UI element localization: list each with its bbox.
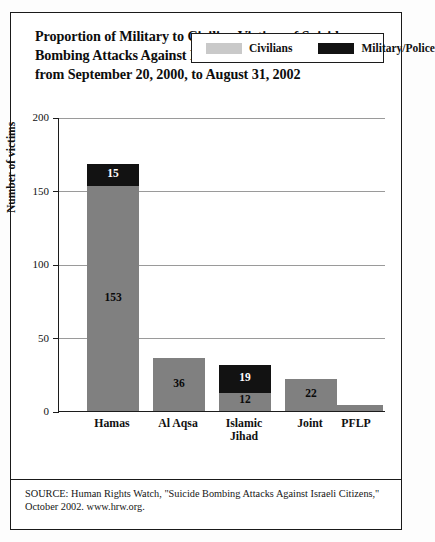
bar-al-aqsa: 36 (153, 358, 205, 411)
y-axis-tick-100 (53, 265, 59, 266)
x-axis-label-line: Jihad (218, 430, 270, 443)
legend-item-military: Military/Police (318, 42, 434, 54)
y-axis-tick-label-150: 150 (9, 185, 49, 197)
bar-value-military: 15 (87, 167, 139, 179)
bar-islamic-jihad: 1219 (219, 365, 271, 411)
x-axis-label-hamas: Hamas (86, 417, 138, 430)
x-axis-label-line: Joint (284, 417, 336, 430)
bar-segment-civilians: 22 (285, 379, 337, 411)
source-line-2: October 2002. www.hrw.org. (25, 500, 387, 513)
gridline-200 (59, 118, 385, 119)
figure-frame: Proportion of Military to Civilian Victi… (10, 12, 402, 530)
x-axis-label-line: Al Aqsa (152, 417, 204, 430)
y-axis-tick-label-50: 50 (9, 332, 49, 344)
bar-value-civilians: 22 (285, 387, 337, 399)
bar-segment-civilians: 153 (87, 186, 139, 411)
x-axis-label-line: Hamas (86, 417, 138, 430)
plot-area: 1531536121922 (58, 118, 385, 412)
bar-value-civilians: 153 (87, 291, 139, 303)
y-axis-tick-0 (53, 412, 59, 413)
bar-segment-civilians (331, 405, 383, 411)
bar-value-military: 19 (219, 371, 271, 383)
bar-value-civilians: 36 (153, 377, 205, 389)
y-axis-label: Number of victims (5, 122, 17, 213)
bar-hamas: 15315 (87, 164, 139, 411)
y-axis-tick-label-200: 200 (9, 111, 49, 123)
x-axis-label-line: PFLP (330, 417, 382, 430)
bar-segment-military: 15 (87, 164, 139, 186)
y-axis-tick-150 (53, 191, 59, 192)
bar-pflp (331, 405, 383, 411)
legend-item-civilians: Civilians (206, 42, 292, 54)
legend-label-civilians: Civilians (249, 42, 292, 54)
source-divider (11, 479, 401, 480)
x-axis-label-pflp: PFLP (330, 417, 382, 430)
legend-label-military: Military/Police (361, 42, 434, 54)
x-axis-label-joint: Joint (284, 417, 336, 430)
bar-segment-civilians: 12 (219, 393, 271, 411)
bar-segment-military: 19 (219, 365, 271, 393)
legend-swatch-military-icon (318, 43, 354, 54)
chart-legend: Civilians Military/Police (191, 33, 384, 63)
bar-joint: 22 (285, 379, 337, 411)
x-axis-label-al-aqsa: Al Aqsa (152, 417, 204, 430)
bar-segment-civilians: 36 (153, 358, 205, 411)
chart-plot-wrapper: Number of victims 1531536121922 Civilian… (11, 13, 403, 531)
bar-value-civilians: 12 (219, 393, 271, 405)
y-axis-tick-200 (53, 118, 59, 119)
y-axis-tick-label-100: 100 (9, 258, 49, 270)
y-axis-tick-label-0: 0 (9, 405, 49, 417)
legend-swatch-civilians-icon (206, 43, 242, 54)
source-line-1: SOURCE: Human Rights Watch, "Suicide Bom… (25, 487, 387, 500)
x-axis-label-islamic-jihad: IslamicJihad (218, 417, 270, 443)
source-note: SOURCE: Human Rights Watch, "Suicide Bom… (25, 487, 387, 514)
y-axis-tick-50 (53, 338, 59, 339)
